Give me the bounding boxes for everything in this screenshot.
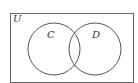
universe-rectangle [11,14,134,83]
set-d-label: D [91,29,100,40]
venn-diagram: U C D [0,0,138,83]
universe-label: U [13,13,22,24]
set-c-label: C [47,29,55,40]
